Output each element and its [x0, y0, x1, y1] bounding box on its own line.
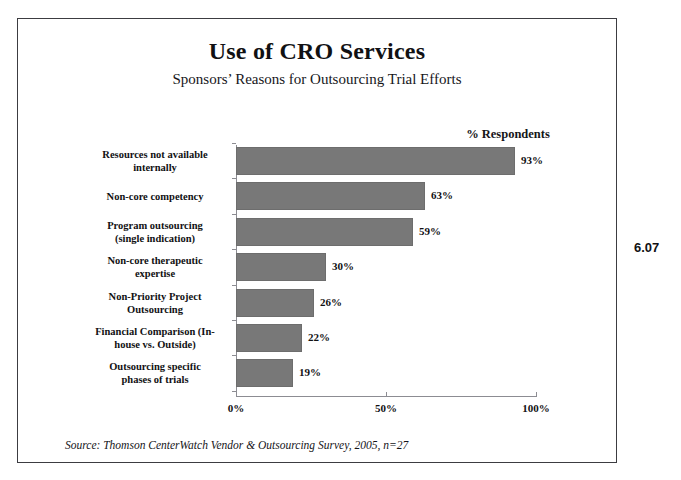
- category-label-line: Non-core competency: [80, 190, 230, 203]
- category-label: Financial Comparison (In-house vs. Outsi…: [80, 325, 230, 351]
- figure-number: 6.07: [634, 240, 659, 255]
- source-note: Source: Thomson CenterWatch Vendor & Out…: [65, 439, 408, 451]
- bar: [236, 324, 302, 352]
- y-axis-tick: [232, 355, 236, 356]
- bar-value-label: 19%: [299, 366, 321, 378]
- plot-area: 93%63%59%30%26%22%19%: [236, 147, 536, 395]
- x-axis-tick: [536, 392, 537, 397]
- chart-title: Use of CRO Services: [18, 38, 616, 65]
- x-axis-tick-label: 0%: [206, 402, 266, 414]
- bar-value-label: 63%: [431, 189, 453, 201]
- y-axis-tick: [232, 214, 236, 215]
- bar-value-label: 93%: [521, 154, 543, 166]
- category-label: Resources not availableinternally: [80, 148, 230, 174]
- bar: [236, 147, 515, 175]
- value-axis-label: % Respondents: [413, 127, 603, 142]
- bar: [236, 218, 413, 246]
- category-label: Outsourcing specificphases of trials: [80, 360, 230, 386]
- x-axis-tick: [386, 392, 387, 397]
- category-label-line: Resources not available: [80, 148, 230, 161]
- category-label-line: Outsourcing: [80, 303, 230, 316]
- category-label-line: Outsourcing specific: [80, 360, 230, 373]
- category-label: Non-core therapeuticexpertise: [80, 254, 230, 280]
- category-label-line: Non-Priority Project: [80, 290, 230, 303]
- category-label-line: house vs. Outside): [80, 338, 230, 351]
- x-axis-tick-label: 50%: [356, 402, 416, 414]
- x-axis-tick-label: 100%: [506, 402, 566, 414]
- y-axis-tick: [232, 249, 236, 250]
- bar-value-label: 22%: [308, 331, 330, 343]
- bar: [236, 253, 326, 281]
- bar-value-label: 30%: [332, 260, 354, 272]
- y-axis-tick: [232, 285, 236, 286]
- y-axis-tick: [232, 320, 236, 321]
- bar: [236, 182, 425, 210]
- bar: [236, 359, 293, 387]
- category-label-line: (single indication): [80, 232, 230, 245]
- category-axis-labels: Resources not availableinternallyNon-cor…: [78, 147, 230, 395]
- category-label-line: Financial Comparison (In-: [80, 325, 230, 338]
- x-axis-tick: [236, 392, 237, 397]
- bar-value-label: 59%: [419, 225, 441, 237]
- category-label-line: Program outsourcing: [80, 219, 230, 232]
- bar: [236, 289, 314, 317]
- y-axis-tick: [232, 178, 236, 179]
- category-label: Non-core competency: [80, 190, 230, 203]
- chart-subtitle: Sponsors’ Reasons for Outsourcing Trial …: [18, 71, 616, 88]
- category-label-line: expertise: [80, 267, 230, 280]
- category-label-line: phases of trials: [80, 373, 230, 386]
- y-axis-tick: [232, 143, 236, 144]
- category-label: Program outsourcing(single indication): [80, 219, 230, 245]
- category-label-line: internally: [80, 161, 230, 174]
- chart-figure-frame: Use of CRO Services Sponsors’ Reasons fo…: [17, 18, 617, 463]
- category-label: Non-Priority ProjectOutsourcing: [80, 290, 230, 316]
- category-label-line: Non-core therapeutic: [80, 254, 230, 267]
- bar-value-label: 26%: [320, 296, 342, 308]
